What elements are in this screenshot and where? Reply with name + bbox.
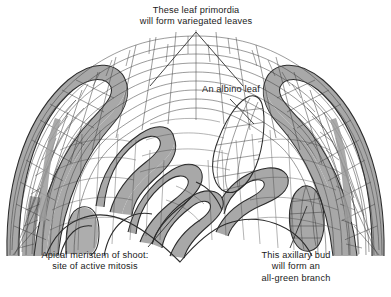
label-apical-meristem: Apical meristem of shoot: site of active… (20, 250, 170, 273)
label-variegated-leaves: These leaf primordia will form variegate… (129, 5, 263, 28)
leader-variegated-left (150, 32, 196, 86)
label-albino-leaf: An albino leaf (183, 84, 279, 95)
diagram-canvas: These leaf primordia will form variegate… (0, 0, 391, 297)
label-axillary-bud: This axillary bud will form an all-green… (237, 250, 355, 284)
cell-walls (10, 30, 382, 256)
leader-variegated-right (196, 32, 243, 86)
